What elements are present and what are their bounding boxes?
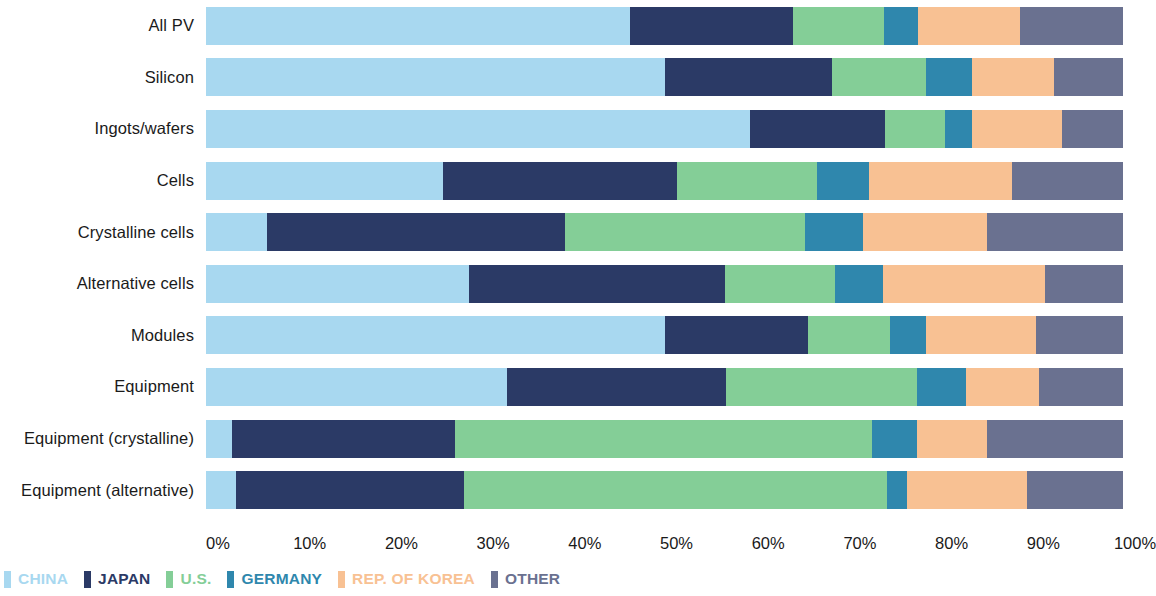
category-label: Modules [0, 326, 206, 345]
bar-segment-rep-of-korea [972, 58, 1055, 96]
bar-segment-rep-of-korea [918, 7, 1021, 45]
bar-segment-u-s [832, 58, 926, 96]
category-label: Ingots/wafers [0, 119, 206, 138]
bar-segment-rep-of-korea [917, 420, 988, 458]
bar-segment-u-s [464, 471, 888, 509]
legend-item[interactable]: CHINA [4, 570, 68, 588]
bar-segment-china [206, 471, 236, 509]
legend-item[interactable]: GERMANY [227, 570, 322, 588]
bar-segment-u-s [793, 7, 884, 45]
x-axis-tick-label: 40% [568, 534, 601, 553]
category-label: Equipment [0, 377, 206, 396]
bar-segment-japan [665, 316, 809, 354]
legend-label: REP. OF KOREA [352, 570, 475, 588]
bar-row: Modules [0, 310, 1146, 362]
legend-label: OTHER [505, 570, 560, 588]
chart-plot-area: All PVSiliconIngots/wafersCellsCrystalli… [0, 0, 1146, 530]
bar-segment-china [206, 316, 665, 354]
bar-row: Silicon [0, 52, 1146, 104]
stacked-bar [206, 265, 1123, 303]
bar-segment-japan [750, 110, 885, 148]
category-label: Crystalline cells [0, 223, 206, 242]
legend-item[interactable]: JAPAN [84, 570, 150, 588]
legend-swatch-icon [4, 571, 11, 588]
bar-segment-japan [236, 471, 463, 509]
x-axis-tick-label: 90% [1027, 534, 1060, 553]
bar-segment-u-s [455, 420, 871, 458]
category-label: Cells [0, 171, 206, 190]
bar-row: Equipment [0, 361, 1146, 413]
bar-segment-japan [443, 162, 678, 200]
bar-row: Ingots/wafers [0, 103, 1146, 155]
bar-segment-germany [926, 58, 972, 96]
stacked-bar [206, 471, 1123, 509]
bar-segment-japan [507, 368, 726, 406]
bar-segment-germany [884, 7, 918, 45]
stacked-bar [206, 213, 1123, 251]
category-label: Equipment (alternative) [0, 481, 206, 500]
legend-item[interactable]: U.S. [166, 570, 211, 588]
bar-segment-other [1054, 58, 1123, 96]
bar-segment-china [206, 162, 443, 200]
bar-segment-china [206, 368, 507, 406]
bar-row: Equipment (crystalline) [0, 413, 1146, 465]
stacked-bar [206, 110, 1123, 148]
bar-segment-germany [872, 420, 917, 458]
bar-row: All PV [0, 0, 1146, 52]
stacked-bar [206, 316, 1123, 354]
bar-segment-other [1036, 316, 1123, 354]
bar-segment-u-s [885, 110, 946, 148]
bar-segment-japan [469, 265, 725, 303]
bar-segment-other [987, 420, 1123, 458]
x-axis-tick-label: 50% [660, 534, 693, 553]
bar-segment-rep-of-korea [869, 162, 1012, 200]
bar-segment-u-s [725, 265, 835, 303]
bar-segment-other [1012, 162, 1123, 200]
legend-label: JAPAN [98, 570, 150, 588]
bar-segment-rep-of-korea [966, 368, 1038, 406]
bar-segment-other [1027, 471, 1123, 509]
bar-segment-germany [917, 368, 967, 406]
bar-segment-japan [232, 420, 456, 458]
bar-segment-other [1020, 7, 1123, 45]
bar-segment-japan [267, 213, 566, 251]
legend-item[interactable]: OTHER [491, 570, 560, 588]
bar-segment-germany [835, 265, 883, 303]
legend-item[interactable]: REP. OF KOREA [338, 570, 475, 588]
bar-segment-rep-of-korea [926, 316, 1036, 354]
legend-swatch-icon [166, 571, 173, 588]
category-label: Equipment (crystalline) [0, 429, 206, 448]
bar-segment-other [1062, 110, 1123, 148]
bar-segment-rep-of-korea [883, 265, 1045, 303]
bar-segment-u-s [677, 162, 816, 200]
bar-segment-japan [665, 58, 833, 96]
bar-segment-rep-of-korea [907, 471, 1026, 509]
bar-segment-germany [890, 316, 926, 354]
bar-segment-japan [630, 7, 793, 45]
bar-segment-china [206, 265, 469, 303]
bar-segment-u-s [808, 316, 890, 354]
bar-segment-rep-of-korea [972, 110, 1063, 148]
bar-segment-germany [945, 110, 972, 148]
legend-label: U.S. [180, 570, 211, 588]
stacked-bar [206, 368, 1123, 406]
x-axis-tick-label: 70% [843, 534, 876, 553]
legend-swatch-icon [338, 571, 345, 588]
category-label: Alternative cells [0, 274, 206, 293]
category-label: Silicon [0, 68, 206, 87]
bar-segment-other [987, 213, 1123, 251]
category-label: All PV [0, 16, 206, 35]
x-axis-tick-label: 0% [206, 534, 230, 553]
bar-segment-u-s [565, 213, 804, 251]
x-axis-tick-label: 80% [935, 534, 968, 553]
x-axis-tick-label: 20% [385, 534, 418, 553]
bar-segment-china [206, 58, 665, 96]
bar-row: Cells [0, 155, 1146, 207]
chart-legend: CHINAJAPANU.S.GERMANYREP. OF KOREAOTHER [4, 566, 576, 592]
bar-row: Alternative cells [0, 258, 1146, 310]
stacked-bar [206, 420, 1123, 458]
bar-segment-china [206, 213, 267, 251]
legend-swatch-icon [491, 571, 498, 588]
x-axis-tick-label: 30% [477, 534, 510, 553]
